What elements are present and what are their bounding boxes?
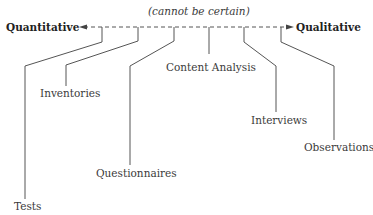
qualitative-label: Qualitative — [296, 21, 361, 34]
method-label-observations: Observations — [304, 141, 373, 153]
method-label-tests: Tests — [14, 200, 41, 212]
method-label-inventories: Inventories — [40, 87, 100, 99]
research-methods-continuum-diagram: Quantitative Qualitative (cannot be cert… — [0, 0, 373, 215]
connector-tests — [25, 27, 102, 199]
left-arrowhead-icon — [79, 25, 87, 30]
method-label-interviews: Interviews — [251, 114, 307, 126]
uncertainty-note: (cannot be certain) — [148, 5, 250, 17]
method-label-content-analysis: Content Analysis — [166, 61, 256, 73]
method-label-questionnaires: Questionnaires — [96, 167, 177, 179]
quantitative-label: Quantitative — [6, 21, 80, 34]
connector-questionnaires — [130, 27, 174, 165]
right-arrowhead-icon — [286, 25, 294, 30]
